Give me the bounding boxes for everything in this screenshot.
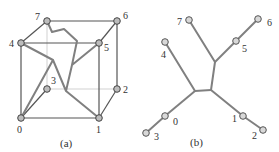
cube-node-7 <box>44 18 51 25</box>
panel-a-cube: 01234567 (a) <box>9 10 128 150</box>
cube-node-6 <box>114 18 121 25</box>
cube-node-5 <box>96 40 103 47</box>
cube-node-label: 1 <box>96 124 101 135</box>
tree-edge <box>215 41 236 62</box>
tree-node-label: 5 <box>242 43 247 54</box>
tree-node-label: 0 <box>173 116 178 127</box>
cube-node-0 <box>18 115 25 122</box>
tree-node-1 <box>240 113 247 120</box>
tree-node-3 <box>143 130 150 137</box>
tree-node-5 <box>233 38 240 45</box>
tree-edge <box>165 42 195 91</box>
figure-canvas: 01234567 (a) 01234567 (b) <box>0 0 279 152</box>
cube-edge <box>99 89 117 118</box>
cube-node-4 <box>18 40 25 47</box>
tree-node-label: 4 <box>161 49 166 60</box>
tree-node-label: 3 <box>154 131 159 142</box>
tree-node-label: 7 <box>177 16 182 27</box>
tree-edge <box>189 20 215 62</box>
tree-node-label: 6 <box>267 17 272 28</box>
cube-node-label: 0 <box>17 124 22 135</box>
tree-node-4 <box>162 39 169 46</box>
tree-edge <box>211 90 243 116</box>
tree-node-label: 1 <box>232 113 237 124</box>
cube-edge <box>21 21 47 43</box>
tree-node-6 <box>255 16 262 23</box>
cube-node-3 <box>44 86 51 93</box>
tree-edge <box>211 62 215 90</box>
cube-node-label: 2 <box>123 84 128 95</box>
cube-node-1 <box>96 115 103 122</box>
cube-front-edges <box>21 21 117 118</box>
cube-node-2 <box>114 86 121 93</box>
tree-edge <box>236 19 258 41</box>
panel-a-caption: (a) <box>60 137 73 150</box>
tree-node-2 <box>260 127 267 134</box>
embedded-tree-path <box>21 21 99 118</box>
tree-node-0 <box>162 113 169 120</box>
panel-b-tree: 01234567 (b) <box>143 16 272 149</box>
tree-edge <box>195 90 211 91</box>
panel-b-caption: (b) <box>190 136 203 149</box>
cube-node-label: 5 <box>104 42 109 53</box>
tree-node-7 <box>186 17 193 24</box>
cube-node-label: 3 <box>51 75 56 86</box>
cube-edge <box>99 21 117 43</box>
tree-node-label: 2 <box>252 130 257 141</box>
cube-node-label: 7 <box>35 11 40 22</box>
cube-node-label: 4 <box>9 38 14 49</box>
tree-edge <box>165 91 195 116</box>
cube-node-label: 6 <box>123 10 128 21</box>
